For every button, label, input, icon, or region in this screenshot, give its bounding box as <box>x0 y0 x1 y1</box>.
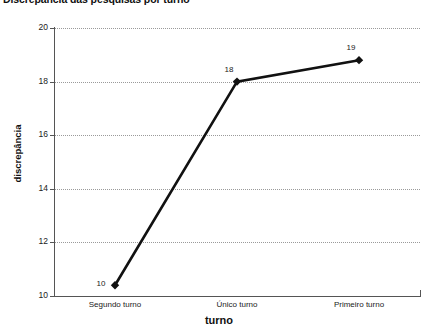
y-axis-line <box>54 27 55 297</box>
gridline <box>54 135 420 136</box>
series-line <box>115 60 359 285</box>
data-series <box>0 0 438 335</box>
y-tick-label: 12 <box>8 237 48 246</box>
data-point-value-label: 18 <box>209 65 249 74</box>
chart-title: Discrepância das pesquisas por turno <box>3 0 190 5</box>
y-tick-label: 20 <box>8 23 48 32</box>
y-tick-label: 10 <box>8 291 48 300</box>
data-point-value-label: 19 <box>331 43 371 52</box>
data-point-value-label: 10 <box>81 279 121 288</box>
x-category-label: Segundo turno <box>55 300 175 309</box>
y-tick-label: 14 <box>8 184 48 193</box>
data-point-marker <box>355 56 363 64</box>
x-axis-endcap <box>420 290 421 297</box>
y-tick-label: 18 <box>8 77 48 86</box>
y-tick-label: 16 <box>8 130 48 139</box>
gridline <box>54 28 420 29</box>
gridline <box>54 189 420 190</box>
x-category-label: Primeiro turno <box>299 300 419 309</box>
gridline <box>54 242 420 243</box>
gridline <box>54 82 420 83</box>
x-axis-label: turno <box>0 314 438 326</box>
x-category-label: Único turno <box>177 300 297 309</box>
x-axis-line <box>54 296 421 297</box>
line-chart: Discrepância das pesquisas por turno dis… <box>0 0 438 335</box>
